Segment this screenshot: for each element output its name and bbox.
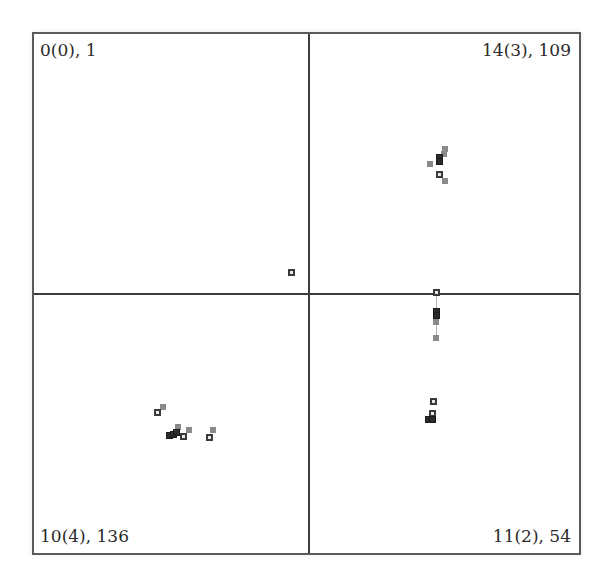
data-point-hollow — [154, 409, 161, 416]
data-point-gray — [433, 335, 439, 341]
quadrant-label-top-left: 0(0), 1 — [40, 42, 97, 59]
data-point-hollow — [288, 269, 295, 276]
horizontal-divider — [34, 293, 579, 295]
data-point-gray — [160, 404, 166, 410]
data-point-hollow — [180, 433, 187, 440]
map-frame: 0(0), 1 14(3), 109 10(4), 136 11(2), 54 — [32, 32, 581, 555]
data-point-hollow — [430, 398, 437, 405]
quadrant-label-top-right: 14(3), 109 — [482, 42, 571, 59]
quadrant-label-bottom-right: 11(2), 54 — [493, 528, 571, 545]
data-point-hollow — [206, 434, 213, 441]
data-point-dark — [173, 429, 180, 436]
data-point-gray — [186, 427, 192, 433]
data-point-dark — [436, 158, 443, 165]
data-point-dark — [433, 312, 440, 319]
data-point-gray — [427, 161, 433, 167]
quadrant-label-bottom-left: 10(4), 136 — [40, 528, 129, 545]
data-point-dark — [429, 416, 436, 423]
data-point-hollow — [436, 171, 443, 178]
data-point-gray — [442, 178, 448, 184]
data-point-gray — [210, 427, 216, 433]
data-point-hollow — [433, 289, 440, 296]
data-point-gray — [433, 319, 439, 325]
